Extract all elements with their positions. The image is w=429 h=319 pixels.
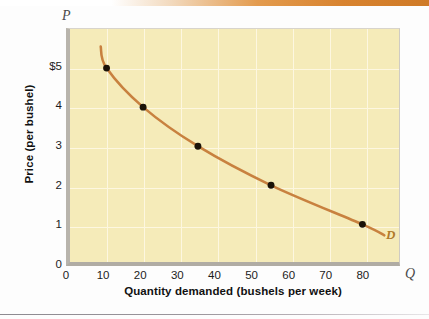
x-tick-label: 40	[197, 269, 231, 281]
x-tick-label: 20	[123, 269, 157, 281]
x-tick-label: 10	[86, 269, 120, 281]
data-point-marker	[359, 221, 366, 228]
bottom-divider-rule	[0, 314, 429, 315]
x-tick-label: 70	[309, 269, 343, 281]
data-point-marker	[103, 65, 110, 72]
top-decorative-band	[0, 0, 429, 6]
x-tick-label: 80	[346, 269, 380, 281]
y-axis-symbol: P	[62, 8, 71, 24]
demand-curve-label: D	[386, 227, 395, 243]
x-tick-label: 60	[272, 269, 306, 281]
x-tick-label: 30	[160, 269, 194, 281]
y-axis-title: Price (per bushel)	[23, 44, 35, 224]
demand-curve-svg	[70, 29, 399, 263]
plot-area	[66, 28, 400, 266]
data-point-marker	[194, 143, 201, 150]
x-tick-label: 0	[49, 269, 83, 281]
x-axis-title: Quantity demanded (bushels per week)	[66, 285, 400, 297]
data-point-marker	[140, 104, 147, 111]
data-point-marker	[268, 182, 275, 189]
demand-curve-figure: P Q 01234$5 01020304050607080 Price (per…	[0, 0, 429, 319]
demand-curve-line	[101, 47, 385, 236]
x-tick-label: 50	[235, 269, 269, 281]
